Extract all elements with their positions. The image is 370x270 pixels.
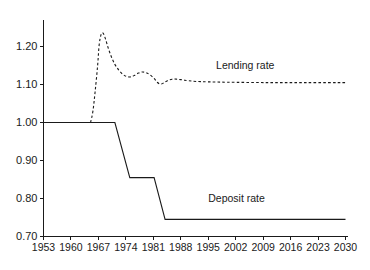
- y-tick-label: 1.00: [16, 116, 37, 128]
- x-tick-label: 2023: [306, 241, 330, 253]
- x-tick-label: 2002: [224, 241, 248, 253]
- x-tick-label: 2016: [279, 241, 303, 253]
- x-tick-label: 1953: [32, 241, 56, 253]
- x-axis-tick-labels: 1953196019671974198119881995200220092016…: [32, 241, 358, 253]
- y-axis-ticks: [40, 47, 44, 237]
- y-tick-label: 0.90: [16, 154, 37, 166]
- line-chart-svg: 0.700.800.901.001.101.20 195319601967197…: [0, 0, 370, 270]
- y-tick-label: 1.20: [16, 40, 37, 52]
- y-tick-label: 0.80: [16, 192, 37, 204]
- x-tick-label: 1974: [114, 241, 138, 253]
- x-tick-label: 1960: [59, 241, 83, 253]
- x-tick-label: 1981: [142, 241, 166, 253]
- chart-container: 0.700.800.901.001.101.20 195319601967197…: [0, 0, 370, 270]
- y-tick-label: 1.10: [16, 78, 37, 90]
- x-tick-label: 2009: [251, 241, 275, 253]
- y-axis-tick-labels: 0.700.800.901.001.101.20: [16, 40, 37, 242]
- series-label-deposit-rate: Deposit rate: [208, 192, 265, 204]
- series-line-deposit-rate: [44, 123, 346, 220]
- x-tick-label: 2030: [334, 241, 358, 253]
- x-axis-ticks: [44, 237, 346, 241]
- x-tick-label: 1995: [197, 241, 221, 253]
- x-tick-label: 1988: [169, 241, 193, 253]
- series-line-lending-rate: [91, 33, 346, 123]
- x-tick-label: 1967: [87, 241, 111, 253]
- series-label-lending-rate: Lending rate: [216, 59, 275, 71]
